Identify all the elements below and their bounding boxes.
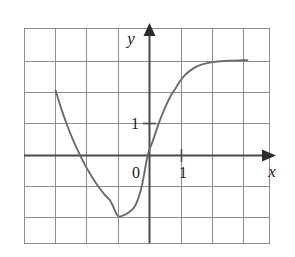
y-axis-label: y [125,29,135,48]
plot-background [0,0,295,257]
function-plot: y x 0 1 1 [0,0,295,257]
x-axis-label: x [267,162,276,181]
y-one-tick-label: 1 [131,115,139,132]
x-one-tick-label: 1 [179,164,187,181]
graph-figure: y x 0 1 1 [0,0,295,257]
origin-tick-label: 0 [132,164,140,181]
